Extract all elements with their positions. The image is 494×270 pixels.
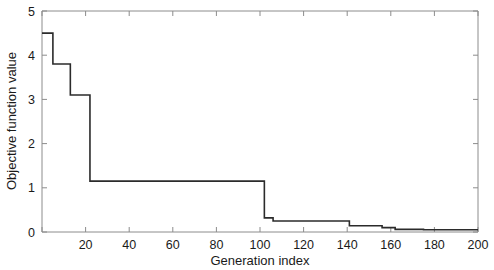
plot-axes bbox=[42, 11, 478, 232]
x-tick-label: 20 bbox=[79, 238, 93, 252]
chart-figure: 20406080100120140160180200 012345 Genera… bbox=[0, 0, 494, 270]
x-tick-label: 60 bbox=[166, 238, 180, 252]
y-tick-label: 2 bbox=[28, 137, 35, 151]
axes-box bbox=[42, 11, 478, 232]
data-series-group bbox=[42, 33, 478, 230]
y-tick-label: 4 bbox=[28, 49, 35, 63]
x-tick-label: 100 bbox=[250, 238, 271, 252]
series-line-best-objective bbox=[42, 33, 478, 230]
x-tick-label: 180 bbox=[424, 238, 445, 252]
x-tick-label: 80 bbox=[209, 238, 223, 252]
x-axis-ticks bbox=[42, 11, 478, 232]
x-tick-label: 160 bbox=[380, 238, 401, 252]
y-axis-label: Objective function value bbox=[4, 52, 19, 190]
y-tick-label: 3 bbox=[28, 93, 35, 107]
y-tick-label: 0 bbox=[28, 226, 35, 240]
y-tick-label: 5 bbox=[28, 5, 35, 19]
x-axis-tick-labels: 20406080100120140160180200 bbox=[79, 238, 489, 252]
x-axis-label: Generation index bbox=[210, 253, 310, 268]
y-axis-tick-labels: 012345 bbox=[28, 5, 35, 240]
y-axis-ticks bbox=[42, 11, 478, 232]
x-tick-label: 200 bbox=[468, 238, 489, 252]
x-tick-label: 40 bbox=[122, 238, 136, 252]
x-tick-label: 140 bbox=[337, 238, 358, 252]
y-tick-label: 1 bbox=[28, 181, 35, 195]
x-tick-label: 120 bbox=[293, 238, 314, 252]
objective-convergence-chart: 20406080100120140160180200 012345 Genera… bbox=[0, 0, 494, 270]
